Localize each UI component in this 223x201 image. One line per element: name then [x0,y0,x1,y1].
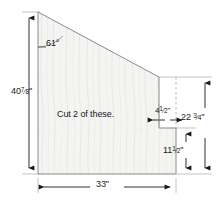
bottom-width-label: 33" [96,180,109,189]
part-outline [38,12,176,174]
diagram-canvas [0,0,223,201]
right-lower-unit: " [180,145,183,155]
notch-width-numerator: 1 [159,105,163,112]
bottom-width-whole: 33 [96,179,106,189]
right-upper-whole: 22 [181,112,191,122]
right-lower-whole: 11 [163,145,172,155]
left-height-label: 407⁄8" [11,87,32,96]
notch-width-denominator: 2 [164,107,168,114]
right-lower-fraction: 1⁄2 [172,146,180,155]
right-upper-denominator: 4 [198,114,202,121]
right-lower-denominator: 2 [177,147,181,154]
notch-width-unit: " [167,106,170,115]
left-height-denominator: 8 [25,88,29,95]
left-height-whole: 40 [11,86,21,96]
right-upper-height-label: 22 3⁄4" [181,113,204,122]
bottom-width-unit: " [106,179,109,189]
notch-width-fraction: 1⁄2 [159,106,167,115]
right-upper-unit: " [201,112,204,122]
left-height-numerator: 7 [21,86,25,93]
left-height-unit: " [29,86,32,96]
right-lower-height-label: 111⁄2" [163,146,183,155]
right-upper-numerator: 3 [193,112,197,119]
cut-quantity-note: Cut 2 of these. [57,110,114,119]
left-height-fraction: 7⁄8 [21,87,29,96]
right-upper-fraction: 3⁄4 [193,113,201,122]
cut-part-diagram: 407⁄8" 61° 41⁄2" 22 3⁄4" 111⁄2" 33" Cut … [0,0,223,201]
right-lower-numerator: 1 [172,145,176,152]
angle-label: 61° [46,39,59,48]
notch-width-label: 41⁄2" [155,106,170,115]
